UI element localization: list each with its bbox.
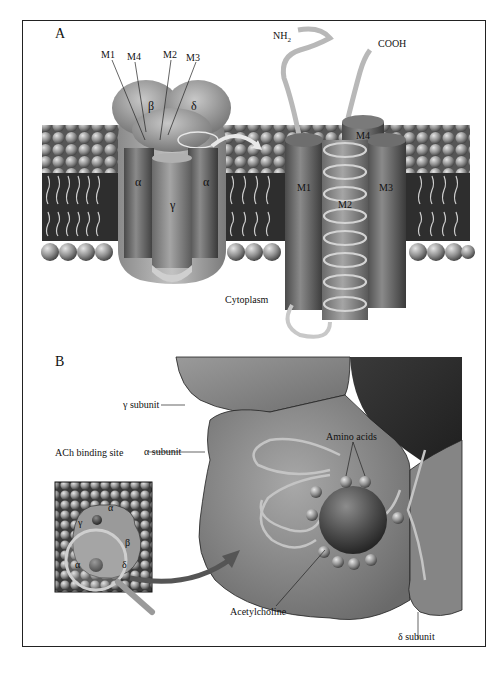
subunit-gamma-label: γ (170, 199, 175, 211)
diagram-canvas (0, 0, 504, 674)
inset-beta-label: β (125, 538, 130, 548)
alpha-left-cylinder (124, 148, 154, 258)
inset-delta-label: δ (122, 560, 127, 570)
inset-alpha-bottom-label: α (75, 560, 80, 570)
cytoplasm-label: Cytoplasm (225, 295, 268, 305)
c-terminal-label: COOH (378, 39, 406, 49)
panel-b-label: B (55, 355, 64, 369)
panel-b (55, 357, 462, 640)
segment-label-m2: M2 (163, 50, 177, 60)
acetylcholine-sphere (319, 486, 387, 554)
gamma-cylinder (152, 158, 192, 268)
amino-acids-callout: Amino acids (326, 432, 377, 442)
delta-subunit-callout: δ subunit (398, 632, 435, 642)
receptor-pentamer (112, 60, 231, 284)
ach-binding-site-callout: ACh binding site (55, 448, 123, 458)
panel-a-label: A (55, 27, 65, 41)
subunit-delta-label: δ (191, 100, 197, 112)
subunit-alpha-right-label: α (203, 176, 209, 188)
helix-m1-label: M1 (297, 183, 311, 193)
acetylcholine-callout: Acetylcholine (230, 607, 286, 617)
gamma-subunit-callout: γ subunit (123, 400, 159, 410)
membrane-bottom-heads (41, 243, 475, 261)
c-terminal-ribbon (348, 50, 370, 118)
alpha-right-cylinder (188, 148, 218, 258)
segment-label-m1: M1 (101, 50, 115, 60)
nh-subscript: 2 (287, 36, 291, 44)
delta-subunit-shape (409, 440, 462, 616)
inset-alpha-top-label: α (108, 503, 113, 513)
m3-cylinder (366, 140, 406, 308)
segment-label-m3: M3 (186, 53, 200, 63)
subunit-beta-label: β (148, 100, 154, 112)
segment-label-m4: M4 (127, 52, 141, 62)
n-terminal-label: NH2 (273, 31, 291, 44)
helix-m3-label: M3 (379, 183, 393, 193)
alpha-subunit-callout: α subunit (144, 447, 181, 457)
inset-gamma-label: γ (78, 518, 82, 528)
m1-cylinder (285, 140, 323, 310)
helix-m4-label: M4 (356, 131, 370, 141)
helix-m2-label: M2 (338, 200, 352, 210)
subunit-alpha-left-label: α (135, 176, 141, 188)
panel-a (41, 29, 475, 337)
nh-text: NH (273, 30, 287, 41)
n-terminal-ribbon (283, 29, 330, 140)
